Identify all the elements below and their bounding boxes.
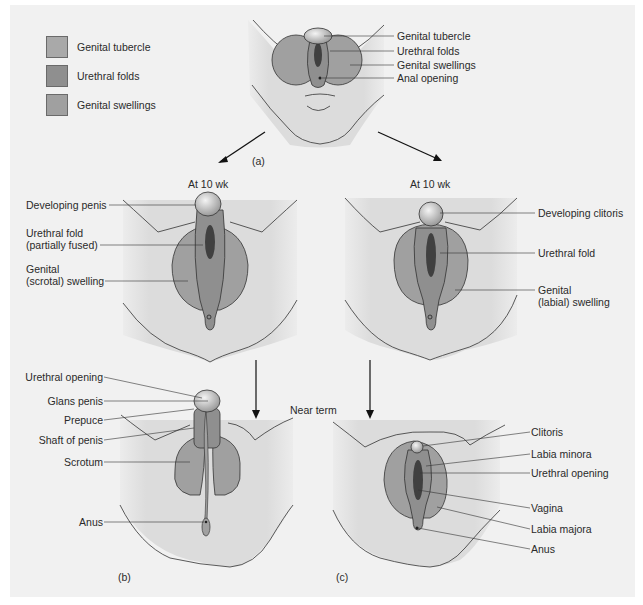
label-urethral-opening-c: Urethral opening bbox=[531, 467, 609, 479]
label-anus-c: Anus bbox=[531, 543, 555, 555]
label-developing-clitoris: Developing clitoris bbox=[538, 207, 623, 219]
label-vagina: Vagina bbox=[531, 502, 563, 514]
label-labia-minora: Labia minora bbox=[531, 448, 592, 460]
male-10wk-title: At 10 wk bbox=[188, 178, 228, 190]
label-labial-swelling: (labial) swelling bbox=[538, 296, 610, 308]
legend-swatch bbox=[46, 65, 68, 87]
label-urethral-opening-b: Urethral opening bbox=[25, 371, 103, 383]
label-glans-penis: Glans penis bbox=[48, 395, 103, 407]
legend-swatch bbox=[46, 36, 68, 58]
legend-item-urethral-folds: Urethral folds bbox=[46, 65, 139, 87]
label-urethral-fold-female: Urethral fold bbox=[538, 247, 595, 259]
legend-item-genital-swellings: Genital swellings bbox=[46, 94, 156, 116]
male-10wk-illustration bbox=[100, 192, 297, 362]
label-genital-tubercle: Genital tubercle bbox=[397, 30, 471, 42]
label-anal-opening: Anal opening bbox=[397, 72, 458, 84]
label-prepuce: Prepuce bbox=[64, 414, 103, 426]
label-genital-female: Genital bbox=[538, 284, 571, 296]
label-developing-penis: Developing penis bbox=[26, 199, 107, 211]
legend-label: Urethral folds bbox=[77, 70, 139, 82]
label-partially-fused: (partially fused) bbox=[26, 239, 98, 251]
panel-c-tag: (c) bbox=[336, 571, 348, 583]
label-scrotum: Scrotum bbox=[64, 456, 103, 468]
legend-label: Genital tubercle bbox=[77, 41, 151, 53]
label-clitoris: Clitoris bbox=[531, 426, 563, 438]
label-genital-swellings: Genital swellings bbox=[397, 59, 476, 71]
female-10wk-title: At 10 wk bbox=[410, 178, 450, 190]
legend-swatch bbox=[46, 94, 68, 116]
legend-label: Genital swellings bbox=[77, 99, 156, 111]
label-labia-majora: Labia majora bbox=[531, 523, 592, 535]
panel-b-tag: (b) bbox=[118, 571, 131, 583]
label-urethral-fold-male: Urethral fold bbox=[26, 227, 83, 239]
near-term-title: Near term bbox=[290, 404, 337, 416]
label-shaft-of-penis: Shaft of penis bbox=[39, 434, 103, 446]
legend-item-genital-tubercle: Genital tubercle bbox=[46, 36, 151, 58]
panel-a-tag: (a) bbox=[252, 155, 265, 167]
label-anus-b: Anus bbox=[79, 516, 103, 528]
female-10wk-illustration bbox=[345, 198, 535, 360]
label-urethral-folds: Urethral folds bbox=[397, 45, 459, 57]
label-scrotal-swelling: (scrotal) swelling bbox=[26, 275, 104, 287]
diagram-canvas: Genital tubercle Urethral folds Genital … bbox=[0, 0, 643, 605]
label-genital-male: Genital bbox=[26, 263, 59, 275]
